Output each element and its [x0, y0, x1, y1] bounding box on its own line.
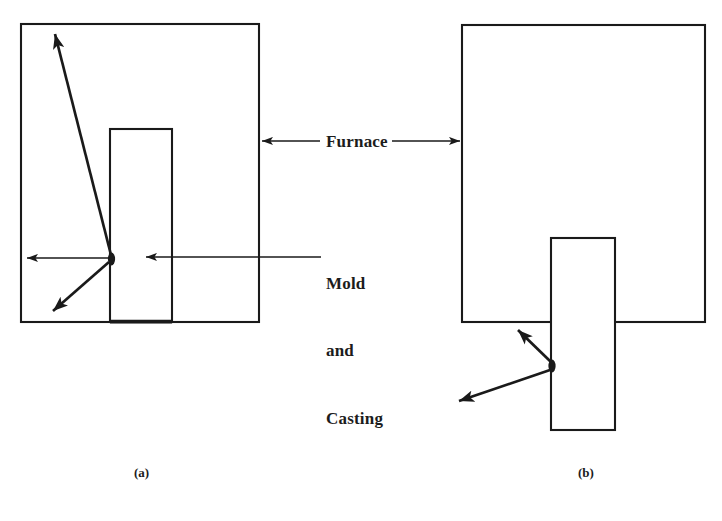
caption-b: (b)	[578, 464, 594, 481]
figure-root: Furnace Mold and Casting (a) (b)	[0, 0, 722, 521]
mold-box-a	[110, 129, 172, 322]
source-dot-a	[108, 253, 115, 266]
source-dot-b	[548, 360, 555, 373]
mold-label-line-1: Mold	[326, 273, 383, 295]
ray-down-left-b	[459, 370, 550, 401]
ray-up-left-a	[55, 34, 111, 255]
mold-and-casting-label: Mold and Casting	[326, 228, 383, 475]
panel-a	[21, 24, 259, 322]
ray-up-left-b	[518, 330, 551, 362]
panel-b	[459, 25, 705, 430]
caption-a: (a)	[134, 464, 149, 481]
mold-label-line-3: Casting	[326, 408, 383, 430]
furnace-label: Furnace	[326, 131, 388, 153]
mold-label-line-2: and	[326, 340, 383, 362]
ray-down-left-a	[53, 262, 109, 311]
mold-box-b	[551, 238, 615, 430]
